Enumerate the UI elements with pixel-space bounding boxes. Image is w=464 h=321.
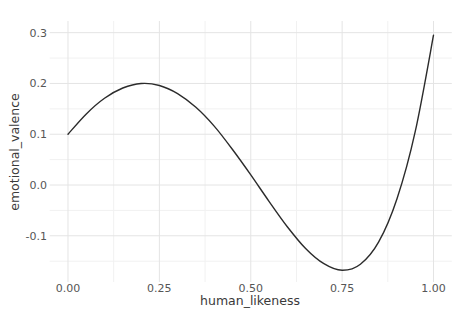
y-tick-label: 0.3 <box>30 27 48 40</box>
grid-major-layer <box>50 21 452 282</box>
y-axis-title: emotional_valence <box>7 93 22 211</box>
chart: 0.000.250.500.751.000.30.20.10.0-0.1 emo… <box>0 0 464 321</box>
y-tick-label: 0.2 <box>30 77 48 90</box>
x-tick-label: 0.25 <box>147 282 172 295</box>
y-tick-label: -0.1 <box>26 230 47 243</box>
x-axis-title: human_likeness <box>200 293 300 308</box>
tick-label-layer: 0.000.250.500.751.000.30.20.10.0-0.1 <box>26 27 446 295</box>
y-tick-label: 0.1 <box>30 128 48 141</box>
x-tick-label: 0.75 <box>330 282 355 295</box>
plot-svg: 0.000.250.500.751.000.30.20.10.0-0.1 emo… <box>0 0 464 321</box>
x-tick-label: 0.00 <box>56 282 81 295</box>
x-tick-label: 1.00 <box>421 282 446 295</box>
y-tick-label: 0.0 <box>30 179 48 192</box>
